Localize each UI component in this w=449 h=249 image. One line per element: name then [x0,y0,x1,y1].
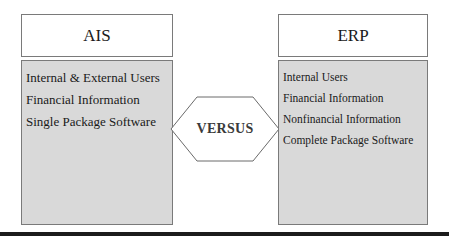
erp-feature-item: Financial Information [283,88,427,109]
erp-feature-item: Complete Package Software [283,130,427,151]
ais-feature-item: Financial Information [26,89,172,111]
ais-title-box: AIS [21,14,173,57]
versus-label: VERSUS [170,96,280,162]
erp-title: ERP [337,26,368,46]
bottom-rule-divider [0,232,449,236]
ais-feature-item: Internal & External Users [26,67,172,89]
ais-feature-list: Internal & External Users Financial Info… [21,60,173,225]
erp-feature-item: Nonfinancial Information [283,109,427,130]
ais-feature-item: Single Package Software [26,111,172,133]
erp-feature-item: Internal Users [283,67,427,88]
erp-title-box: ERP [278,14,428,57]
erp-feature-list: Internal Users Financial Information Non… [278,60,428,225]
ais-title: AIS [83,26,110,46]
